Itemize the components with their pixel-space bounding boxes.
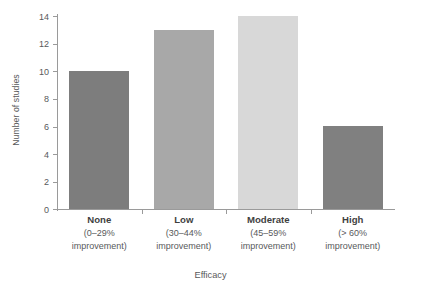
y-tick-label: 2 — [44, 177, 53, 187]
category-range: (30–44% — [142, 227, 227, 239]
y-tick-label: 14 — [39, 12, 53, 22]
y-tick-label: 6 — [44, 122, 53, 132]
y-axis-title: Number of studies — [11, 50, 21, 170]
category-name: None — [57, 214, 142, 226]
bar — [69, 71, 129, 209]
x-axis-title: Efficacy — [0, 270, 421, 280]
category-label: High(> 60%improvement) — [311, 214, 396, 252]
y-tick-label: 0 — [44, 205, 53, 215]
y-tick: 8 — [44, 90, 57, 108]
y-tick-label: 10 — [39, 67, 53, 77]
y-tick-label: 12 — [39, 39, 53, 49]
plot-area: 02468101214 — [57, 16, 395, 209]
y-tick: 12 — [39, 35, 57, 53]
y-tick-mark — [53, 71, 57, 72]
y-tick: 2 — [44, 172, 57, 190]
category-label: None(0–29%improvement) — [57, 214, 142, 252]
category-note: improvement) — [142, 240, 227, 252]
y-tick-mark — [53, 44, 57, 45]
category-label: Moderate(45–59%improvement) — [226, 214, 311, 252]
bar — [323, 126, 383, 209]
category-name: Low — [142, 214, 227, 226]
bar-chart: Number of studies 02468101214 None(0–29%… — [0, 0, 421, 292]
category-label: Low(30–44%improvement) — [142, 214, 227, 252]
y-tick: 6 — [44, 117, 57, 135]
category-note: improvement) — [311, 240, 396, 252]
y-tick-mark — [53, 154, 57, 155]
y-tick-label: 4 — [44, 150, 53, 160]
y-tick-mark — [53, 99, 57, 100]
bar — [154, 30, 214, 209]
category-name: Moderate — [226, 214, 311, 226]
y-tick-label: 8 — [44, 94, 53, 104]
category-note: improvement) — [226, 240, 311, 252]
y-tick: 10 — [39, 62, 57, 80]
y-tick-mark — [53, 209, 57, 210]
category-range: (> 60% — [311, 227, 396, 239]
category-name: High — [311, 214, 396, 226]
y-tick: 0 — [44, 200, 57, 218]
y-tick: 4 — [44, 145, 57, 163]
y-tick-mark — [53, 182, 57, 183]
category-range: (0–29% — [57, 227, 142, 239]
bar — [238, 16, 298, 209]
y-tick: 14 — [39, 7, 57, 25]
y-tick-mark — [53, 16, 57, 17]
category-note: improvement) — [57, 240, 142, 252]
y-tick-mark — [53, 127, 57, 128]
category-range: (45–59% — [226, 227, 311, 239]
